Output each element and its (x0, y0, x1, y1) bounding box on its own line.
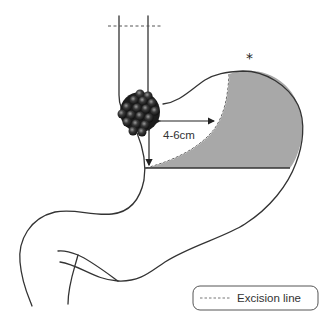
star-marker: * (246, 50, 253, 66)
legend: Excision line (193, 286, 318, 310)
stomach-diagram: 4-6cm * Excision line (0, 0, 325, 326)
duodenum-inner-wall (58, 251, 78, 304)
tumor (118, 90, 161, 137)
legend-label: Excision line (237, 292, 301, 304)
distance-label: 4-6cm (163, 129, 195, 141)
resected-region (146, 71, 302, 168)
stomach-lesser-curve (20, 133, 145, 306)
